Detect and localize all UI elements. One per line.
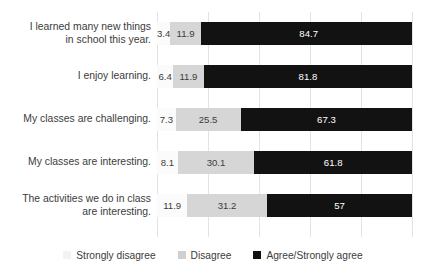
stacked-bar: 3.411.984.7 <box>157 22 412 45</box>
segment-value-label: 61.8 <box>324 157 343 168</box>
category-label: I enjoy learning. <box>4 55 151 98</box>
segment-value-label: 30.1 <box>207 157 226 168</box>
bar-segment: 30.1 <box>178 151 255 174</box>
stacked-bar: 11.931.257 <box>157 194 412 217</box>
bar-segment: 11.9 <box>157 194 187 217</box>
bar-segment: 11.9 <box>173 65 203 88</box>
bar-segment: 6.4 <box>157 65 173 88</box>
bar-segment: 67.3 <box>241 108 412 131</box>
segment-value-label: 11.9 <box>180 71 198 82</box>
legend-swatch-icon <box>253 251 261 259</box>
category-label: The activities we do in class are intere… <box>4 184 151 227</box>
stacked-bar-chart: I learned many new things in school this… <box>0 0 426 273</box>
segment-value-label: 25.5 <box>199 114 218 125</box>
bar-segment: 84.7 <box>201 22 412 45</box>
segment-value-label: 7.3 <box>160 114 173 125</box>
segment-value-label: 11.9 <box>177 28 195 39</box>
segment-value-label: 57 <box>334 200 345 211</box>
legend-swatch-icon <box>63 251 71 259</box>
stacked-bar: 7.325.567.3 <box>157 108 412 131</box>
category-label: My classes are interesting. <box>4 141 151 184</box>
chart-legend: Strongly disagreeDisagreeAgree/Strongly … <box>0 246 426 264</box>
legend-swatch-icon <box>178 251 186 259</box>
bar-segment: 31.2 <box>187 194 267 217</box>
chart-row: I enjoy learning.6.411.981.8 <box>0 55 426 98</box>
stacked-bar: 6.411.981.8 <box>157 65 412 88</box>
segment-value-label: 6.4 <box>158 71 171 82</box>
category-label: My classes are challenging. <box>4 98 151 141</box>
chart-row: The activities we do in class are intere… <box>0 184 426 227</box>
segment-value-label: 67.3 <box>317 114 336 125</box>
segment-value-label: 8.1 <box>161 157 174 168</box>
bar-segment: 25.5 <box>176 108 241 131</box>
legend-item[interactable]: Disagree <box>178 250 232 261</box>
legend-label: Agree/Strongly agree <box>266 250 362 261</box>
chart-row: My classes are interesting.8.130.161.8 <box>0 141 426 184</box>
chart-rows: I learned many new things in school this… <box>0 12 426 237</box>
legend-label: Strongly disagree <box>76 250 155 261</box>
bar-segment: 7.3 <box>157 108 176 131</box>
bar-segment: 8.1 <box>157 151 178 174</box>
segment-value-label: 31.2 <box>218 200 237 211</box>
chart-row: My classes are challenging.7.325.567.3 <box>0 98 426 141</box>
category-label: I learned many new things in school this… <box>4 12 151 55</box>
bar-segment: 57 <box>267 194 412 217</box>
bar-segment: 11.9 <box>170 22 200 45</box>
bar-segment: 61.8 <box>254 151 412 174</box>
legend-item[interactable]: Agree/Strongly agree <box>253 250 362 261</box>
segment-value-label: 81.8 <box>299 71 318 82</box>
segment-value-label: 3.4 <box>157 28 170 39</box>
legend-item[interactable]: Strongly disagree <box>63 250 155 261</box>
chart-row: I learned many new things in school this… <box>0 12 426 55</box>
bar-segment: 3.4 <box>157 22 170 45</box>
segment-value-label: 11.9 <box>163 200 181 211</box>
bar-segment: 81.8 <box>204 65 412 88</box>
legend-label: Disagree <box>191 250 232 261</box>
stacked-bar: 8.130.161.8 <box>157 151 412 174</box>
segment-value-label: 84.7 <box>299 28 318 39</box>
